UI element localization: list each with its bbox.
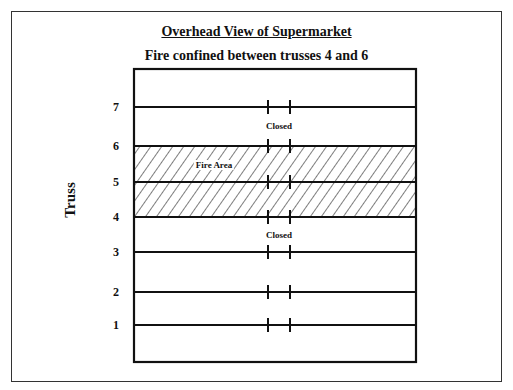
closed-label-lower: Closed bbox=[266, 230, 292, 240]
fire-area-label: Fire Area bbox=[194, 160, 234, 170]
building-plan bbox=[0, 0, 513, 390]
closed-label-upper: Closed bbox=[266, 121, 292, 131]
truss-lines bbox=[134, 107, 416, 325]
